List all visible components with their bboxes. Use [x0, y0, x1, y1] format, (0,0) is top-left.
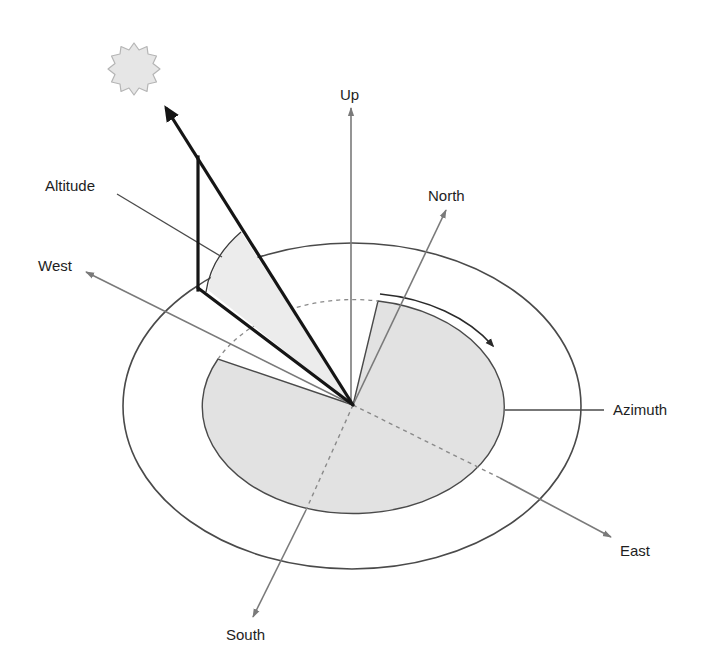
label-west: West — [38, 257, 73, 274]
label-north: North — [428, 187, 465, 204]
east-axis — [500, 478, 611, 537]
label-up: Up — [340, 86, 359, 103]
label-south: South — [226, 626, 265, 643]
label-altitude: Altitude — [45, 177, 95, 194]
sun-icon — [108, 43, 160, 95]
sun-direction-vector — [166, 108, 353, 405]
label-east: East — [620, 542, 651, 559]
azimuth-disc — [202, 301, 504, 514]
south-axis — [253, 510, 306, 617]
sun-position-diagram: Up North Altitude West Azimuth East Sout… — [0, 0, 717, 664]
label-azimuth: Azimuth — [613, 401, 667, 418]
altitude-leader — [117, 194, 222, 257]
